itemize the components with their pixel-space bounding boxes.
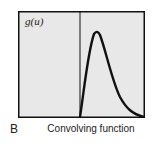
panel-letter: B xyxy=(10,122,18,136)
y-axis-label: g(u) xyxy=(25,15,43,27)
convolving-function-plot xyxy=(18,11,145,118)
panel-caption: Convolving function xyxy=(34,123,148,134)
plot-svg xyxy=(18,11,145,118)
